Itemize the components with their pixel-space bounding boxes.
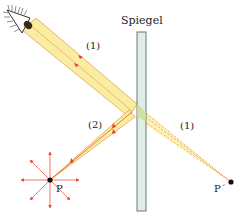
eye-icon bbox=[3, 5, 34, 33]
mirror bbox=[137, 32, 146, 211]
virtual-beam bbox=[137, 104, 231, 182]
beam-1-label-lower: (1) bbox=[180, 121, 194, 131]
object-point-label: P bbox=[56, 184, 63, 194]
diagram-canvas bbox=[0, 0, 241, 216]
object-point-P bbox=[47, 177, 52, 182]
beam-1-label-upper: (1) bbox=[86, 41, 100, 51]
image-point-label: P´ bbox=[214, 184, 226, 194]
image-point-P-prime bbox=[228, 179, 233, 184]
mirror-reflection-diagram: Spiegel (1) (2) (1) P P´ bbox=[0, 0, 241, 216]
beam-2-label: (2) bbox=[88, 120, 102, 130]
beam-1-incoming bbox=[22, 18, 137, 117]
mirror-label: Spiegel bbox=[121, 15, 163, 26]
